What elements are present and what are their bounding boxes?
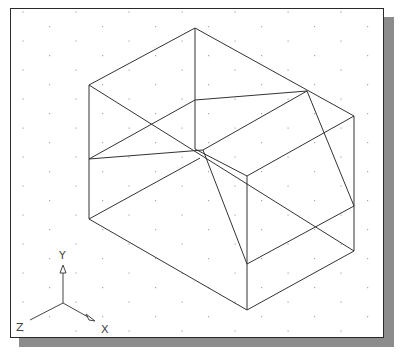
ucs-x-arrow-icon [86, 314, 95, 321]
model-edge[interactable] [89, 219, 247, 310]
model-edge[interactable] [307, 91, 354, 206]
ucs-icon: Y X Z [16, 249, 109, 336]
model-edge[interactable] [203, 150, 247, 264]
ucs-y-arrow-icon [60, 265, 66, 273]
model-edge[interactable] [195, 28, 354, 116]
drawing-canvas[interactable]: Y X Z [0, 0, 400, 356]
model-edge[interactable] [247, 251, 354, 310]
model-edge[interactable] [89, 28, 195, 85]
model-edge[interactable] [203, 91, 307, 150]
ucs-z-axis [30, 303, 63, 320]
model-edge[interactable] [195, 91, 307, 100]
model-edge[interactable] [247, 206, 354, 264]
ucs-x-label: X [101, 323, 109, 336]
model-edge[interactable] [195, 149, 247, 176]
model-edge[interactable] [89, 150, 203, 159]
ucs-x-axis [63, 303, 88, 317]
ucs-y-label: Y [58, 249, 66, 262]
ucs-z-label: Z [16, 321, 24, 334]
model-edge[interactable] [89, 158, 200, 219]
model-edge[interactable] [89, 100, 195, 159]
